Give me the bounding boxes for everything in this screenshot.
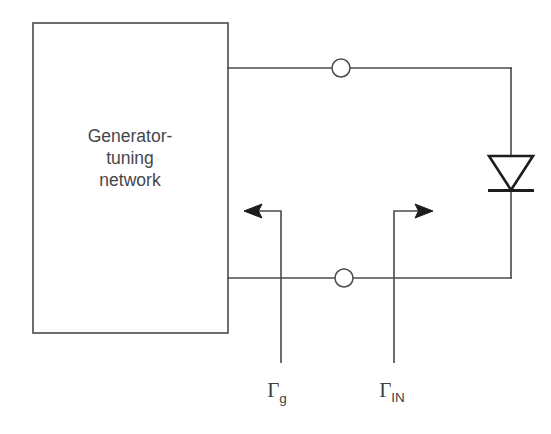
gamma-g-subscript: g (279, 391, 287, 406)
block-label-line-2: tuning (106, 148, 154, 168)
circuit-schematic-canvas: Generator- tuning network Γg ΓIN (0, 0, 551, 434)
gamma-in-symbol: Γ (379, 378, 391, 402)
block-label-line-3: network (99, 170, 161, 190)
gamma-g-reference-line (250, 211, 281, 363)
diode-triangle-icon (489, 156, 533, 190)
gamma-in-label: ΓIN (379, 378, 405, 405)
gamma-in-subscript: IN (391, 390, 405, 405)
gamma-g-label: Γg (267, 378, 287, 406)
bottom-port-node-icon (335, 269, 353, 287)
circuit-diagram: Generator- tuning network Γg ΓIN (0, 0, 551, 434)
block-label-line-1: Generator- (88, 126, 173, 146)
gamma-in-reference-line (394, 211, 427, 363)
gamma-g-symbol: Γ (267, 378, 279, 402)
top-port-node-icon (332, 59, 350, 77)
